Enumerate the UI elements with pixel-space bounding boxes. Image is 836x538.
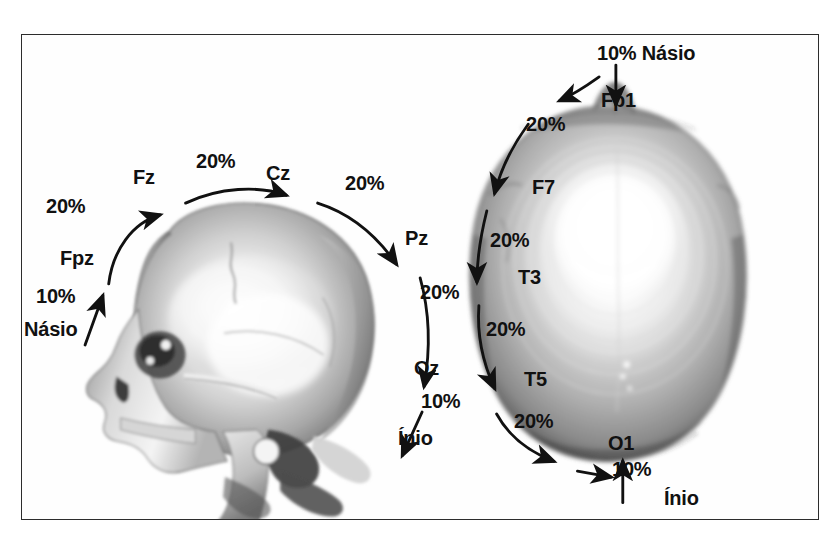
pct-fz-cz: 20% (196, 151, 235, 171)
pct-nasio-fpz: 10% (36, 286, 75, 306)
pct-o1-inio: 10% (612, 459, 651, 479)
arrow-fpz-fz (109, 215, 160, 284)
pct-t5-o1: 20% (514, 411, 553, 431)
arrow-cz-pz (318, 203, 397, 264)
arrow-fz-cz (186, 189, 287, 203)
electrode-fpz: Fpz (60, 248, 94, 268)
landmark-inio: Ínio (398, 428, 433, 448)
landmark-nasio: Násio (24, 319, 77, 339)
arrow-o1-inio (578, 471, 612, 477)
electrode-t5: T5 (524, 369, 547, 389)
electrode-f7: F7 (532, 177, 555, 197)
pct-fp1-f7: 20% (526, 114, 565, 134)
arrow-f7-t3 (477, 211, 487, 282)
pct-f7-t3: 20% (490, 230, 529, 250)
pct-cz-pz: 20% (345, 173, 384, 193)
electrode-t3: T3 (518, 267, 541, 287)
pct-oz-inio: 10% (421, 391, 460, 411)
electrode-fz: Fz (133, 167, 155, 187)
landmark-inio-bottom: Ínio (664, 488, 699, 508)
electrode-fp1: Fp1 (601, 90, 636, 110)
electrode-o1: O1 (608, 433, 634, 453)
figure-root: 10%NásioFpz20%Fz20%Cz20%Pz20%Oz10%Ínio10… (0, 0, 836, 538)
pct-fpz-fz: 20% (46, 196, 85, 216)
electrode-cz: Cz (266, 163, 290, 183)
arrow-fp1-f7 (495, 124, 529, 193)
arrow-nasio-fp1 (560, 77, 599, 101)
electrode-oz: Oz (414, 358, 439, 378)
arrow-nasio-fpz (85, 296, 103, 345)
electrode-pz: Pz (405, 228, 428, 248)
pct-nasio-fp1-top: 10% Násio (597, 43, 695, 63)
pct-t3-t5: 20% (486, 319, 525, 339)
lateral-skull-panel (22, 35, 436, 519)
pct-pz-oz: 20% (420, 282, 459, 302)
lateral-measurement-arrows (22, 35, 436, 519)
